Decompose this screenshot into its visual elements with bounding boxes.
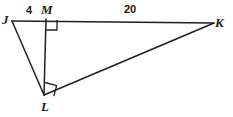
segment-ml [44, 19, 46, 95]
right-angle-group [45, 20, 57, 96]
vertex-label-k: K [215, 16, 224, 29]
geometry-figure: J M K L 4 20 [0, 0, 233, 117]
figure-canvas [0, 0, 233, 117]
vertex-label-j: J [2, 13, 9, 26]
segment-lk [44, 23, 214, 95]
segment-group [12, 19, 214, 95]
vertex-label-m: M [41, 3, 53, 16]
measure-label-mk: 20 [124, 4, 136, 15]
vertex-label-l: L [41, 100, 49, 113]
segment-jk [12, 21, 214, 23]
segment-jl [12, 21, 44, 95]
measure-label-jm: 4 [26, 5, 32, 16]
